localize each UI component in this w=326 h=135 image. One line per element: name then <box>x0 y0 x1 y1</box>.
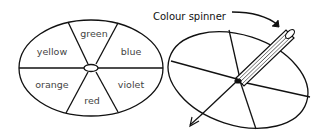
right-spinner-disc <box>156 15 321 135</box>
diagram-title: Colour spinner <box>153 11 227 22</box>
segment-label-red: red <box>84 95 100 106</box>
segment-label-green: green <box>80 28 107 39</box>
segment-label-violet: violet <box>118 79 145 90</box>
segment-label-blue: blue <box>121 46 142 57</box>
curved-arrow-icon <box>232 12 279 27</box>
segment-label-orange: orange <box>35 79 69 90</box>
segment-label-yellow: yellow <box>37 46 68 57</box>
diagram-canvas: green blue violet red orange yellow Colo… <box>0 0 326 135</box>
